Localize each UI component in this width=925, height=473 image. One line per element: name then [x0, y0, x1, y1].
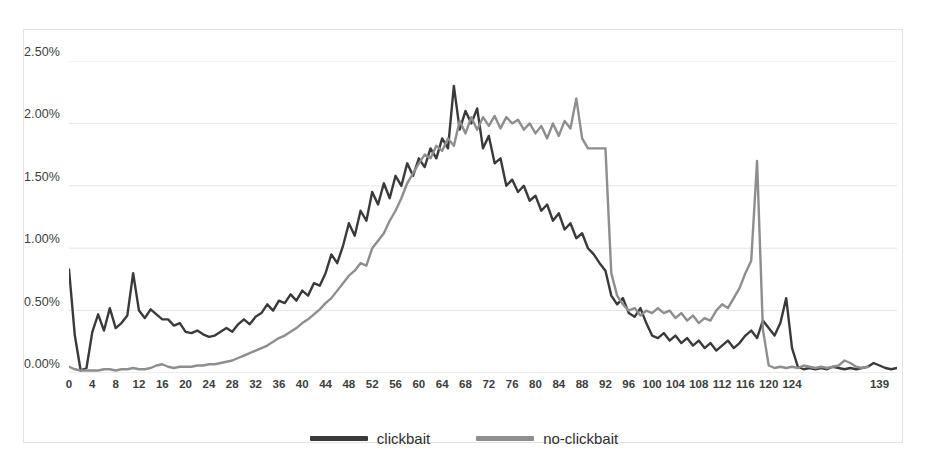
x-axis-tick-label: 40 — [296, 378, 309, 390]
chart-legend: clickbait no-clickbait — [24, 430, 904, 447]
x-axis-tick-label: 104 — [666, 378, 685, 390]
legend-swatch-no-clickbait — [476, 436, 534, 441]
y-axis-tick-label: 0.50% — [24, 295, 60, 309]
x-axis-tick-label: 84 — [552, 378, 565, 390]
legend-item-no-clickbait[interactable]: no-clickbait — [476, 430, 618, 447]
x-axis-tick-label: 92 — [599, 378, 612, 390]
x-axis-tick-label: 60 — [412, 378, 425, 390]
plot-area — [69, 61, 897, 373]
legend-label-clickbait: clickbait — [377, 430, 430, 447]
x-axis-tick-label: 112 — [713, 378, 732, 390]
x-axis-tick-label: 76 — [506, 378, 519, 390]
x-axis-tick-label: 68 — [459, 378, 472, 390]
x-axis-tick-label: 139 — [870, 378, 889, 390]
y-axis-tick-label: 0.00% — [24, 357, 60, 371]
x-axis-tick-label: 64 — [436, 378, 449, 390]
x-axis-tick-label: 72 — [482, 378, 495, 390]
series-lines — [69, 86, 897, 371]
x-axis-tick-label: 24 — [203, 378, 216, 390]
y-axis-tick-label: 2.50% — [24, 45, 60, 59]
series-line-no-clickbait — [69, 98, 868, 370]
y-axis-tick-label: 1.00% — [24, 232, 60, 246]
x-axis-labels: 0481216202428323640444852566064687276808… — [69, 378, 897, 400]
legend-swatch-clickbait — [310, 436, 368, 441]
x-axis-tick-label: 4 — [89, 378, 95, 390]
x-axis-tick-label: 108 — [689, 378, 708, 390]
line-chart-svg — [69, 61, 897, 373]
x-axis-tick-label: 48 — [342, 378, 355, 390]
x-axis-tick-label: 124 — [782, 378, 801, 390]
x-axis-tick-label: 56 — [389, 378, 402, 390]
y-axis-tick-label: 1.50% — [24, 170, 60, 184]
x-axis-tick-label: 28 — [226, 378, 239, 390]
x-axis-tick-label: 88 — [576, 378, 589, 390]
x-axis-tick-label: 12 — [133, 378, 146, 390]
y-axis-tick-label: 2.00% — [24, 107, 60, 121]
x-axis-tick-label: 36 — [273, 378, 286, 390]
x-axis-tick-label: 116 — [736, 378, 755, 390]
x-axis-tick-label: 16 — [156, 378, 169, 390]
chart-container: 0.00%0.50%1.00%1.50%2.00%2.50% 048121620… — [23, 29, 903, 443]
x-axis-tick-label: 96 — [622, 378, 635, 390]
x-axis-tick-label: 100 — [643, 378, 662, 390]
gridlines — [69, 61, 897, 373]
x-axis-tick-label: 52 — [366, 378, 379, 390]
x-axis-tick-label: 0 — [66, 378, 72, 390]
x-axis-tick-label: 120 — [759, 378, 778, 390]
series-line-clickbait — [69, 86, 897, 371]
y-axis-labels: 0.00%0.50%1.00%1.50%2.00%2.50% — [24, 52, 68, 352]
x-axis-tick-label: 80 — [529, 378, 542, 390]
x-axis-tick-label: 32 — [249, 378, 262, 390]
legend-item-clickbait[interactable]: clickbait — [310, 430, 430, 447]
x-axis-tick-label: 44 — [319, 378, 332, 390]
x-axis-tick-label: 8 — [112, 378, 118, 390]
legend-label-no-clickbait: no-clickbait — [543, 430, 618, 447]
x-axis-tick-label: 20 — [179, 378, 192, 390]
